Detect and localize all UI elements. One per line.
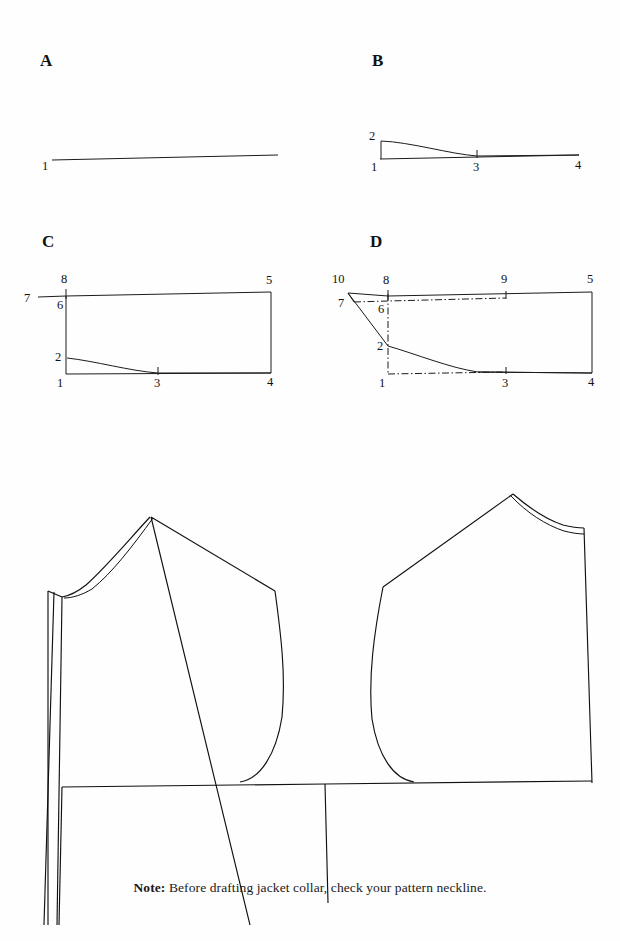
front-side-below-chest: [59, 787, 62, 925]
diagram-d-point-6: 6: [378, 302, 384, 316]
diagram-d-stub-10-7: [348, 293, 354, 302]
back-shoulder-seam: [383, 494, 513, 587]
front-edge-top-connector: [48, 591, 62, 597]
diagram-d-point-2: 2: [377, 339, 383, 353]
note-text: Before drafting jacket collar, check you…: [165, 880, 486, 895]
diagram-c-point-8: 8: [61, 272, 67, 286]
diagram-d-point-8: 8: [383, 273, 389, 287]
note-row: Note: Before drafting jacket collar, che…: [0, 880, 620, 896]
diagram-b-point-3: 3: [473, 160, 479, 174]
diagram-c-neck-curve: [67, 358, 271, 373]
front-bodice-piece: [44, 517, 283, 925]
diagram-d-top-side: [348, 292, 592, 296]
panel-letter-b: B: [372, 51, 383, 70]
diagram-c-point-7: 7: [24, 291, 30, 305]
back-neckline-outer-curve: [513, 494, 584, 528]
front-shoulder-seam: [151, 517, 275, 925]
diagram-b-point-2: 2: [369, 129, 375, 143]
diagram-d-point-7: 7: [338, 296, 344, 310]
diagram-c-top-side: [66, 292, 271, 296]
back-center-line: [584, 528, 592, 783]
diagram-d-construction-line-6-9: [354, 298, 506, 302]
diagram-d-construction-line-1-3: [388, 372, 506, 374]
diagram-b-point-4: 4: [575, 158, 582, 172]
diagram-d-point-5: 5: [587, 272, 593, 286]
diagram-d-point-9: 9: [501, 272, 507, 286]
front-neckline-inner-curve: [64, 518, 153, 598]
diagram-c-point-5: 5: [266, 273, 272, 287]
front-neckline-outer-curve: [62, 517, 150, 597]
diagram-c-point-1: 1: [57, 376, 63, 390]
panel-letter-a: A: [40, 51, 53, 70]
diagram-d-neck-curve: [388, 346, 592, 373]
diagram-c-point-6: 6: [57, 298, 63, 312]
diagram-b-point-1: 1: [371, 160, 377, 174]
diagram-c-point-3: 3: [154, 376, 160, 390]
diagram-a-baseline: [52, 155, 278, 160]
chest-line: [62, 781, 592, 787]
diagram-c-point-4: 4: [267, 375, 274, 389]
diagram-d-point-10: 10: [332, 272, 345, 286]
front-fold-line: [44, 592, 54, 925]
diagram-c: C 8 7 6 5 2 1 3 4: [0, 215, 310, 405]
diagram-b: B 2 1 3 4: [330, 28, 620, 198]
diagram-a-point-1: 1: [42, 159, 48, 173]
diagram-d: D 10 8 9 5 7 6 2 1 3 4: [310, 215, 620, 405]
diagram-b-neck-curve: [381, 141, 579, 156]
diagram-c-extension-to-7: [38, 296, 66, 297]
diagram-d-point-4: 4: [588, 375, 595, 389]
page-sheet: A 1 B 2 1 3 4 C 8 7: [0, 0, 620, 941]
diagram-d-point-3: 3: [502, 376, 508, 390]
back-bodice-piece: [371, 494, 592, 783]
bodice-pattern-drawing: [0, 455, 620, 925]
front-armhole-curve: [240, 591, 283, 782]
diagram-c-point-2: 2: [55, 350, 61, 364]
diagram-d-point-1: 1: [379, 376, 385, 390]
panel-letter-d: D: [370, 232, 382, 251]
panel-letter-c: C: [42, 232, 54, 251]
diagram-a: A 1: [0, 28, 310, 198]
back-armhole-curve: [371, 587, 414, 782]
note-label: Note:: [133, 880, 165, 895]
